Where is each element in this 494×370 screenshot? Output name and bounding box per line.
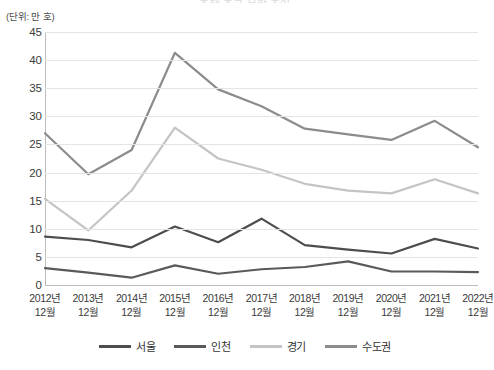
series-lines — [45, 32, 478, 285]
x-axis-tick: 2015년12월 — [159, 291, 190, 319]
grid-line — [45, 257, 478, 258]
grid-line — [45, 32, 478, 33]
series-line-경기 — [45, 128, 478, 231]
series-line-수도권 — [45, 53, 478, 174]
x-axis-tick: 2017년12월 — [246, 291, 277, 319]
x-axis-tick-year: 2018년 — [289, 291, 320, 305]
x-axis-tick-year: 2015년 — [159, 291, 190, 305]
y-axis-tick: 40 — [4, 54, 42, 66]
x-axis-tick-month: 12월 — [246, 305, 277, 319]
x-axis-tick-month: 12월 — [116, 305, 147, 319]
x-axis-tick-year: 2022년 — [462, 291, 493, 305]
x-axis-line — [45, 285, 478, 286]
x-axis-tick-labels: 2012년12월2013년12월2014년12월2015년12월2016년12월… — [45, 291, 478, 331]
grid-line — [45, 173, 478, 174]
y-axis-tick: 0 — [4, 279, 42, 291]
legend-swatch-icon — [250, 345, 282, 348]
grid-line — [45, 229, 478, 230]
y-axis-tick: 25 — [4, 138, 42, 150]
x-axis-tick-month: 12월 — [73, 305, 104, 319]
y-axis-tick: 30 — [4, 110, 42, 122]
x-axis-tick-year: 2012년 — [29, 291, 60, 305]
x-axis-tick-month: 12월 — [462, 305, 493, 319]
x-axis-tick: 2014년12월 — [116, 291, 147, 319]
x-axis-tick-year: 2020년 — [376, 291, 407, 305]
grid-line — [45, 201, 478, 202]
plot-area — [45, 32, 478, 285]
legend-item-수도권[interactable]: 수도권 — [325, 338, 391, 354]
y-axis-tick: 20 — [4, 167, 42, 179]
grid-line — [45, 88, 478, 89]
x-axis-tick-month: 12월 — [203, 305, 234, 319]
x-axis-tick-month: 12월 — [376, 305, 407, 319]
chart-legend: 서울인천경기수도권 — [0, 338, 490, 354]
legend-item-인천[interactable]: 인천 — [174, 338, 230, 354]
grid-line — [45, 60, 478, 61]
x-axis-tick: 2013년12월 — [73, 291, 104, 319]
x-axis-tick-year: 2016년 — [203, 291, 234, 305]
y-axis-tick: 5 — [4, 251, 42, 263]
chart-title: 주택 준공 물량 추이 — [0, 0, 490, 3]
x-axis-tick: 2020년12월 — [376, 291, 407, 319]
x-axis-tick: 2012년12월 — [29, 291, 60, 319]
legend-label: 서울 — [136, 338, 155, 354]
legend-label: 경기 — [287, 338, 306, 354]
x-axis-tick: 2019년12월 — [332, 291, 363, 319]
legend-label: 인천 — [211, 338, 230, 354]
x-axis-tick-month: 12월 — [159, 305, 190, 319]
x-axis-tick: 2021년12월 — [419, 291, 450, 319]
x-axis-tick-month: 12월 — [289, 305, 320, 319]
series-line-인천 — [45, 261, 478, 277]
y-axis-tick: 45 — [4, 26, 42, 38]
x-axis-tick: 2016년12월 — [203, 291, 234, 319]
x-axis-tick-month: 12월 — [332, 305, 363, 319]
y-axis-tick: 35 — [4, 82, 42, 94]
x-axis-tick-year: 2017년 — [246, 291, 277, 305]
x-axis-tick: 2018년12월 — [289, 291, 320, 319]
x-axis-tick-year: 2014년 — [116, 291, 147, 305]
x-axis-tick: 2022년12월 — [462, 291, 493, 319]
legend-swatch-icon — [325, 345, 357, 348]
legend-item-서울[interactable]: 서울 — [99, 338, 155, 354]
y-axis-tick: 15 — [4, 195, 42, 207]
series-line-서울 — [45, 219, 478, 254]
legend-item-경기[interactable]: 경기 — [250, 338, 306, 354]
legend-swatch-icon — [174, 345, 206, 348]
legend-label: 수도권 — [362, 338, 391, 354]
x-axis-tick-year: 2019년 — [332, 291, 363, 305]
x-axis-tick-year: 2021년 — [419, 291, 450, 305]
x-axis-tick-year: 2013년 — [73, 291, 104, 305]
grid-line — [45, 144, 478, 145]
grid-line — [45, 116, 478, 117]
y-axis-tick: 10 — [4, 223, 42, 235]
x-axis-tick-month: 12월 — [419, 305, 450, 319]
x-axis-tick-month: 12월 — [29, 305, 60, 319]
legend-swatch-icon — [99, 345, 131, 348]
